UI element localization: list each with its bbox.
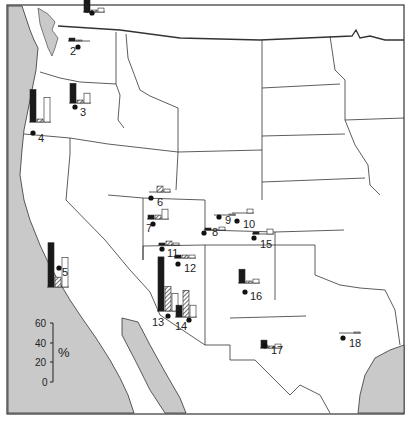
bar-solid (148, 215, 154, 219)
site-label: 15 (260, 238, 272, 250)
bar-open (190, 305, 196, 317)
site-label: 3 (80, 106, 86, 118)
bar-solid (48, 243, 54, 287)
bar-hatched (165, 286, 171, 311)
bar-hatched (77, 100, 83, 103)
scale-tick-0: 0 (42, 377, 48, 388)
bar-open (98, 8, 104, 12)
site-label: 12 (184, 262, 196, 274)
bar-solid (205, 228, 211, 230)
site-dot (201, 230, 206, 235)
bar-hatched (183, 290, 189, 317)
site-label: 13 (152, 316, 164, 328)
bar-solid (239, 269, 245, 283)
site-dot (72, 104, 77, 109)
site-dot (56, 265, 61, 270)
scale-tick-40: 40 (35, 338, 47, 349)
bar-hatched (166, 241, 172, 245)
bar-open (173, 243, 179, 245)
bar-solid (30, 90, 36, 122)
site-dot (340, 335, 345, 340)
site-label: 5 (62, 266, 68, 278)
bar-hatched (157, 186, 163, 192)
bar-open (162, 209, 168, 219)
bar-solid (159, 243, 165, 245)
bar-solid (253, 232, 259, 234)
bar-open (164, 189, 170, 192)
site-dot (262, 343, 267, 348)
bar-solid (70, 83, 76, 103)
site-dot (159, 246, 164, 251)
site-dot (242, 289, 247, 294)
site-dot (148, 195, 153, 200)
site-dot (175, 261, 180, 266)
bar-open (267, 229, 273, 234)
site-label: 4 (38, 132, 44, 144)
site-label: 10 (243, 218, 255, 230)
bar-hatched (246, 281, 252, 283)
bar-open (247, 209, 253, 213)
site-label: 1 (84, 3, 90, 15)
site-label: 16 (250, 290, 262, 302)
scale-unit: % (58, 345, 70, 360)
bar-solid (176, 305, 182, 317)
site-dot (75, 44, 80, 49)
bar-solid (175, 255, 181, 258)
bar-open (253, 279, 259, 283)
bar-open (354, 332, 360, 333)
bar-solid (69, 38, 75, 41)
site-label: 6 (157, 196, 163, 208)
site-dot (251, 235, 256, 240)
bar-open (44, 97, 50, 122)
bar-open (84, 93, 90, 103)
bar-solid (158, 257, 164, 311)
bar-hatched (55, 277, 61, 287)
site-label: 7 (146, 222, 152, 234)
scale-tick-20: 20 (35, 357, 47, 368)
site-label: 2 (70, 45, 76, 57)
site-label: 9 (225, 214, 231, 226)
bar-hatched (37, 119, 43, 122)
bar-open (189, 255, 195, 258)
map-canvas: 60 40 20 0 % 123456789101112131415161718 (0, 0, 410, 421)
bar-hatched (76, 40, 82, 41)
site-label: 8 (212, 226, 218, 238)
site-dot (216, 214, 221, 219)
site-dot (30, 130, 35, 135)
map-figure: 60 40 20 0 % 123456789101112131415161718 (0, 0, 410, 421)
site-label: 18 (349, 337, 361, 349)
site-label: 17 (271, 344, 283, 356)
bar-open (219, 227, 225, 230)
site-dot (165, 313, 170, 318)
site-dot (89, 10, 94, 15)
bar-hatched (155, 215, 161, 219)
site-label: 14 (175, 320, 187, 332)
site-dot (234, 218, 239, 223)
scale-tick-60: 60 (35, 318, 47, 329)
bar-hatched (182, 255, 188, 258)
